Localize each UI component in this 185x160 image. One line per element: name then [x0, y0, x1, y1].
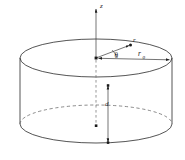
depth-top-tick: [107, 84, 110, 87]
r0-dimension-line: [99, 58, 170, 60]
center-axis-bottom-marker: [95, 124, 98, 127]
origin-point-marker: [95, 57, 98, 60]
r-vector-label: r: [133, 36, 136, 44]
r-vector-line: [96, 46, 129, 59]
cylinder-diagram: z r θ r 0 d: [0, 0, 185, 160]
depth-label: d: [105, 100, 109, 108]
depth-bottom-tick: [107, 141, 110, 144]
r-vector-endpoint: [129, 44, 132, 47]
figure-canvas: z r θ r 0 d: [0, 0, 185, 160]
r0-label: r: [138, 49, 141, 58]
z-axis-label: z: [99, 2, 103, 10]
theta-angle-label: θ: [115, 51, 119, 60]
r0-subscript-label: 0: [143, 55, 146, 60]
